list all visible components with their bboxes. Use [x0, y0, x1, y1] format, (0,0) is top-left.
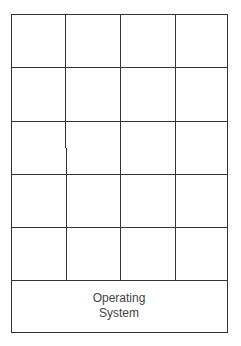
os-label-line-2: System — [99, 306, 139, 321]
column-divider — [66, 14, 67, 280]
operating-system-block: Operating System — [11, 280, 227, 332]
os-label-line-1: Operating — [93, 291, 146, 306]
